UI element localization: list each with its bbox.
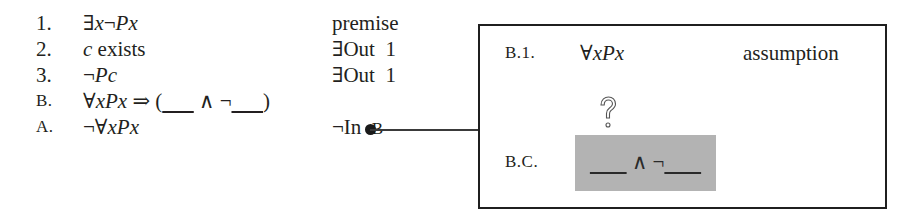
- proof-line-3: 3. ¬Pc ∃Out 1: [0, 62, 460, 88]
- proof-line-1: 1. ∃x¬Px premise: [0, 10, 460, 36]
- line-justification: premise: [332, 10, 398, 36]
- line-formula: ∀xPx ⇒ ( ∧ ¬ ): [83, 88, 270, 114]
- line-number: 3.: [36, 62, 52, 88]
- subproof-box: B.1. ∀xPx assumption B.C. ∧ ¬: [478, 24, 887, 209]
- line-label: A.: [36, 114, 54, 140]
- justification-rule: ¬In: [332, 115, 361, 139]
- proof-line-A: A. ¬∀xPx ¬In B: [0, 114, 460, 140]
- subproof-conclusion-label: B.C.: [505, 149, 538, 175]
- line-label: B.: [36, 88, 53, 114]
- line-number: 2.: [36, 36, 52, 62]
- line-number: 1.: [36, 10, 52, 36]
- proof-line-B: B. ∀xPx ⇒ ( ∧ ¬ ): [0, 88, 460, 114]
- question-mark-outline-icon[interactable]: [598, 96, 618, 130]
- line-formula: ¬∀xPx: [83, 114, 139, 140]
- subproof-line-justification: assumption: [743, 40, 839, 66]
- line-formula: ¬Pc: [83, 62, 117, 88]
- subproof-assumption-line: B.1. ∀xPx assumption: [480, 40, 880, 66]
- line-formula: ∃x¬Px: [83, 10, 138, 36]
- proof-line-2: 2. c exists ∃Out 1: [0, 36, 460, 62]
- subproof-goal-formula: ∧ ¬: [575, 149, 716, 175]
- connector-line: [370, 129, 479, 131]
- subproof-line-label: B.1.: [505, 40, 535, 66]
- subproof-line-formula: ∀xPx: [580, 40, 624, 66]
- subproof-goal-highlight[interactable]: ∧ ¬: [575, 135, 716, 191]
- line-justification: ∃Out 1: [332, 62, 396, 88]
- line-formula: c exists: [83, 36, 145, 62]
- line-justification: ∃Out 1: [332, 36, 396, 62]
